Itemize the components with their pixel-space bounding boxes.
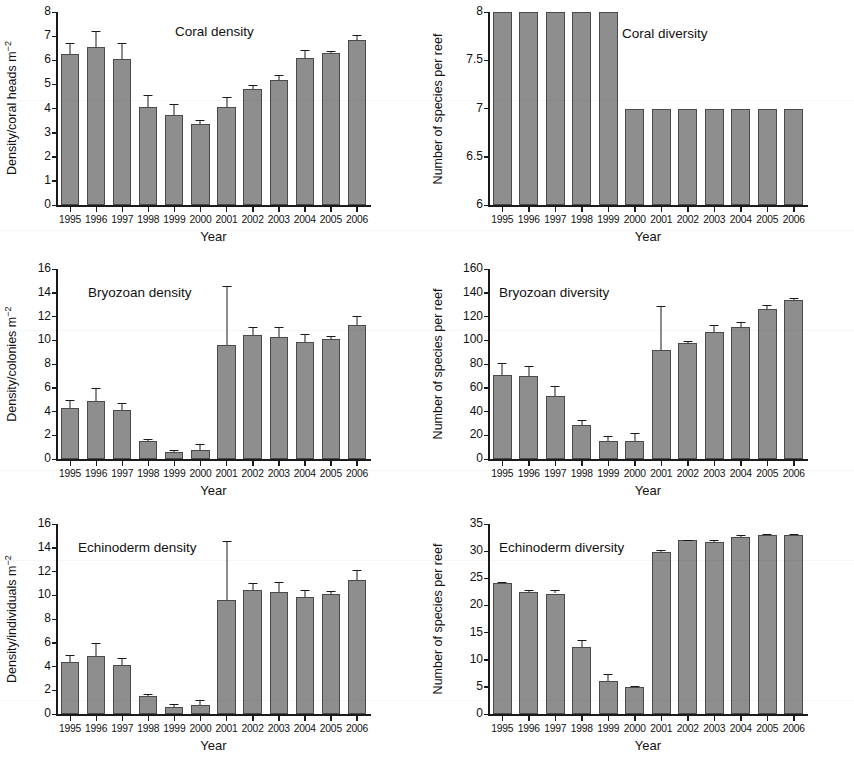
x-tick-label-1997: 1997 (540, 214, 570, 225)
y-tick (52, 132, 57, 133)
y-tick (484, 316, 489, 317)
error-bar-bryozoan-density-1996 (90, 388, 102, 401)
error-bar-echinoderm-density-1997 (116, 658, 128, 665)
x-tick (278, 207, 279, 212)
error-bar-cap (170, 104, 179, 105)
error-bar-cap (524, 366, 533, 367)
y-tick (52, 619, 57, 620)
x-tick (226, 716, 227, 721)
y-axis-label-text: Density/coral heads m−2 (3, 42, 19, 176)
x-tick (148, 461, 149, 466)
error-bar-cap (248, 583, 257, 584)
x-tick-label-1996: 1996 (514, 723, 544, 734)
y-tick-label: 6.5 (445, 149, 483, 163)
y-axis-label: Density/individuals m−2 (2, 524, 20, 714)
y-tick (52, 714, 57, 715)
y-axis-label: Density/coral heads m−2 (2, 12, 20, 205)
error-bar-bryozoan-diversity-2004 (735, 322, 747, 327)
error-bar-cap (222, 97, 231, 98)
bar-echinoderm-diversity-2002 (678, 540, 697, 714)
error-bar-coral-density-1996 (90, 31, 102, 47)
x-tick (200, 716, 201, 721)
x-axis-label: Year (489, 738, 807, 753)
figure-panel-grid: 0123456781995199619971998199920002001200… (0, 0, 854, 765)
bar-bryozoan-diversity-1999 (599, 441, 618, 459)
error-bar-echinoderm-diversity-1999 (602, 674, 614, 681)
x-axis-line (488, 714, 808, 716)
x-tick (581, 716, 582, 721)
error-bar-cap (604, 436, 613, 437)
error-bar-cap (274, 582, 283, 583)
y-tick (484, 387, 489, 388)
bar-bryozoan-density-2001 (217, 345, 235, 459)
error-bar-bryozoan-density-2003 (273, 327, 285, 337)
bar-echinoderm-density-2004 (296, 597, 314, 714)
y-axis-label: Number of species per reef (429, 524, 447, 714)
bar-coral-diversity-2000 (625, 109, 644, 206)
error-bar-echinoderm-diversity-2001 (655, 550, 667, 552)
error-bar-echinoderm-diversity-1997 (549, 590, 561, 593)
x-tick (687, 207, 688, 212)
bar-bryozoan-diversity-2005 (758, 309, 777, 459)
bar-bryozoan-density-1998 (139, 441, 157, 459)
bar-echinoderm-density-1998 (139, 696, 157, 714)
x-tick (356, 461, 357, 466)
x-tick-label-1995: 1995 (487, 214, 517, 225)
bar-echinoderm-diversity-2001 (652, 552, 671, 714)
y-tick (484, 714, 489, 715)
x-tick (555, 461, 556, 466)
bar-echinoderm-diversity-2003 (705, 542, 724, 714)
x-tick (148, 716, 149, 721)
error-bar-echinoderm-density-2006 (351, 570, 363, 580)
x-tick (148, 207, 149, 212)
error-bar-stem (122, 403, 123, 411)
bar-echinoderm-density-2000 (191, 705, 209, 714)
plot-area-coral-density (57, 12, 370, 205)
error-bar-stem (96, 643, 97, 656)
y-tick-label: 25 (445, 570, 483, 584)
error-bar-stem (226, 541, 227, 600)
x-tick-label-1997: 1997 (540, 723, 570, 734)
x-tick (634, 716, 635, 721)
error-bar-cap (789, 534, 798, 535)
bar-coral-density-2004 (296, 58, 314, 205)
y-tick (484, 12, 489, 13)
error-bar-cap (577, 640, 586, 641)
error-bar-cap (657, 306, 666, 307)
bar-coral-density-2001 (217, 107, 235, 205)
y-tick-label: 20 (445, 427, 483, 441)
error-bar-cap (300, 334, 309, 335)
error-bar-coral-density-1997 (116, 43, 128, 59)
x-tick (767, 716, 768, 721)
x-axis-label: Year (57, 229, 370, 244)
y-tick (52, 36, 57, 37)
bar-coral-diversity-1997 (546, 12, 565, 205)
error-bar-cap (170, 704, 179, 705)
x-tick-label-2000: 2000 (620, 214, 650, 225)
bar-coral-diversity-2003 (705, 109, 724, 206)
error-bar-cap (92, 643, 101, 644)
y-tick (484, 156, 489, 157)
x-tick (555, 716, 556, 721)
y-tick (52, 84, 57, 85)
x-tick (70, 461, 71, 466)
bar-echinoderm-diversity-1999 (599, 681, 618, 714)
bar-bryozoan-diversity-1998 (572, 425, 591, 459)
y-tick (52, 435, 57, 436)
y-tick (52, 180, 57, 181)
bar-bryozoan-density-2005 (322, 339, 340, 459)
error-bar-stem (226, 286, 227, 345)
y-tick (484, 340, 489, 341)
x-tick (528, 207, 529, 212)
error-bar-cap (248, 85, 257, 86)
error-bar-cap (683, 341, 692, 342)
x-tick-label-2003: 2003 (699, 214, 729, 225)
error-bar-bryozoan-density-2000 (194, 444, 206, 449)
y-axis-label-text: Number of species per reef (431, 544, 445, 695)
bar-echinoderm-density-2001 (217, 600, 235, 714)
x-tick-label-2004: 2004 (726, 214, 756, 225)
x-tick (226, 207, 227, 212)
error-bar-cap (683, 540, 692, 541)
x-tick (740, 716, 741, 721)
bar-echinoderm-diversity-2005 (758, 535, 777, 714)
